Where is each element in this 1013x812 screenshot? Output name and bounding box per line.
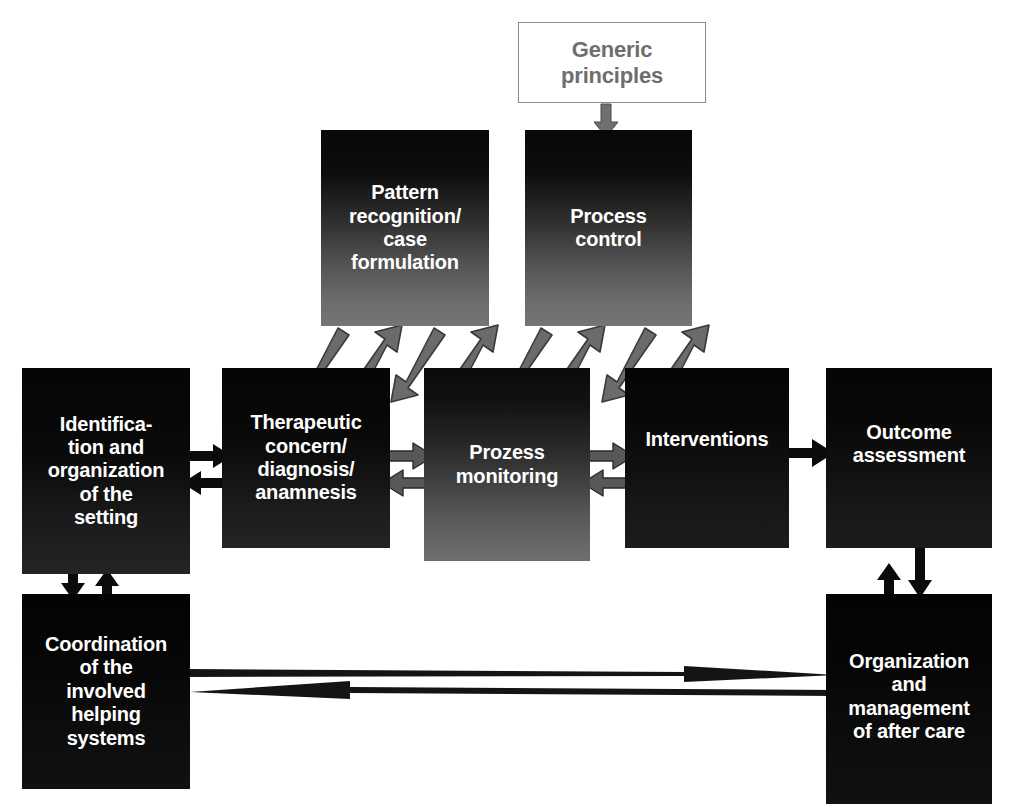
node-pattern-recognition[interactable]: Patternrecognition/caseformulation bbox=[321, 130, 489, 326]
node-label-generic-principles: Genericprinciples bbox=[557, 37, 667, 88]
node-therapeutic-concern[interactable]: Therapeuticconcern/diagnosis/anamnesis bbox=[222, 368, 390, 548]
node-process-control[interactable]: Processcontrol bbox=[525, 130, 692, 326]
node-label-process-control: Processcontrol bbox=[566, 205, 650, 252]
node-label-prozess-monitoring: Prozessmonitoring bbox=[452, 441, 562, 488]
edge-aftercare-to-coordination bbox=[190, 681, 836, 699]
node-label-after-care: Organizationandmanagementof after care bbox=[844, 650, 973, 744]
edge-outcome-aftercare bbox=[877, 548, 932, 598]
node-interventions[interactable]: Interventions bbox=[625, 368, 789, 548]
node-label-interventions: Interventions bbox=[642, 428, 773, 451]
node-coordination[interactable]: Coordinationof theinvolvedhelpingsystems bbox=[22, 594, 190, 789]
node-after-care[interactable]: Organizationandmanagementof after care bbox=[826, 594, 992, 804]
node-label-pattern-recognition: Patternrecognition/caseformulation bbox=[345, 181, 465, 275]
node-label-identification: Identifica-tion andorganizationof theset… bbox=[44, 413, 169, 530]
node-outcome-assessment[interactable]: Outcomeassessment bbox=[826, 368, 992, 548]
node-generic-principles[interactable]: Genericprinciples bbox=[518, 22, 706, 103]
diagram-canvas: Genericprinciples Patternrecognition/cas… bbox=[0, 0, 1013, 812]
node-label-therapeutic-concern: Therapeuticconcern/diagnosis/anamnesis bbox=[246, 411, 365, 505]
node-label-outcome-assessment: Outcomeassessment bbox=[849, 421, 970, 468]
node-label-coordination: Coordinationof theinvolvedhelpingsystems bbox=[41, 633, 171, 750]
node-prozess-monitoring[interactable]: Prozessmonitoring bbox=[424, 368, 590, 561]
node-identification[interactable]: Identifica-tion andorganizationof theset… bbox=[22, 368, 190, 574]
edge-coordination-to-aftercare bbox=[190, 666, 836, 682]
